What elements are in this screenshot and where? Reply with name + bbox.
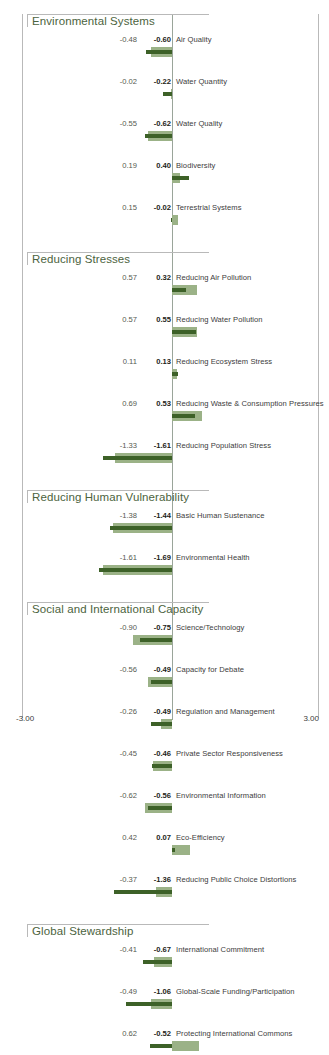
section-left-tick — [27, 924, 28, 937]
row-bars — [0, 369, 329, 383]
row-label: Reducing Water Pollution — [176, 315, 263, 324]
row-value-primary: 0.15 — [104, 203, 137, 212]
bar-secondary-dark — [150, 1044, 172, 1048]
row-label: Global-Scale Funding/Participation — [176, 987, 295, 996]
section-title: Reducing Stresses — [32, 253, 130, 265]
row-value-secondary: 0.07 — [140, 833, 171, 842]
axis-min-label: -3.00 — [16, 714, 34, 723]
row-bars — [0, 957, 329, 971]
bar-secondary-dark — [145, 134, 172, 138]
row-bars — [0, 761, 329, 775]
chart-row: 0.130.11Reducing Ecosystem Stress — [0, 356, 329, 398]
row-label: Reducing Public Choice Distortions — [176, 875, 296, 884]
chart-row: -1.61-1.33Reducing Population Stress — [0, 440, 329, 482]
row-value-primary: 0.69 — [104, 399, 137, 408]
section-title: Global Stewardship — [32, 925, 134, 937]
bar-secondary-dark — [103, 456, 172, 460]
row-value-secondary: -1.36 — [140, 875, 171, 884]
bar-secondary-dark — [110, 526, 172, 530]
row-bars — [0, 999, 329, 1013]
chart-row: -1.44-1.38Basic Human Sustenance — [0, 510, 329, 552]
row-value-primary: 0.42 — [104, 833, 137, 842]
row-value-primary: -1.61 — [104, 553, 137, 562]
row-value-primary: -0.48 — [104, 35, 137, 44]
row-value-primary: -0.41 — [104, 945, 137, 954]
row-value-primary: -1.33 — [104, 441, 137, 450]
bar-secondary-dark — [172, 372, 178, 376]
chart-row: 0.400.19Biodiversity — [0, 160, 329, 202]
row-label: International Commitment — [176, 945, 264, 954]
row-value-secondary: -0.46 — [140, 749, 171, 758]
chart-section: Reducing Stresses0.320.57Reducing Air Po… — [0, 252, 329, 482]
row-label: Private Sector Responsiveness — [176, 749, 283, 758]
row-bars — [0, 1041, 329, 1055]
chart-row: -0.67-0.41International Commitment — [0, 944, 329, 986]
row-value-secondary: -0.02 — [140, 203, 171, 212]
bar-secondary-dark — [126, 1002, 172, 1006]
chart-row: -0.46-0.45Private Sector Responsiveness — [0, 748, 329, 790]
chart-section: Reducing Human Vulnerability-1.44-1.38Ba… — [0, 490, 329, 594]
row-label: Basic Human Sustenance — [176, 511, 264, 520]
bar-secondary-dark — [146, 50, 172, 54]
row-label: Terrestrial Systems — [176, 203, 242, 212]
row-value-secondary: 0.40 — [140, 161, 171, 170]
row-value-secondary: -1.06 — [140, 987, 171, 996]
bar-secondary-dark — [152, 764, 172, 768]
row-bars — [0, 845, 329, 859]
chart-row: -0.520.62Protecting International Common… — [0, 1028, 329, 1055]
row-bars — [0, 887, 329, 901]
row-value-secondary: 0.53 — [140, 399, 171, 408]
bar-secondary-dark — [172, 176, 189, 180]
row-label: Water Quantity — [176, 77, 227, 86]
row-value-secondary: 0.13 — [140, 357, 171, 366]
row-bars — [0, 327, 329, 341]
row-label: Air Quality — [176, 35, 212, 44]
row-bars — [0, 89, 329, 103]
bar-secondary-dark — [163, 92, 172, 96]
row-value-secondary: -0.60 — [140, 35, 171, 44]
bar-secondary-dark — [99, 568, 172, 572]
section-left-tick — [27, 252, 28, 265]
row-value-primary: 0.57 — [104, 273, 137, 282]
bar-primary-light — [172, 1041, 199, 1051]
row-bars — [0, 523, 329, 537]
axis-max-label: 3.00 — [303, 714, 319, 723]
section-left-tick — [27, 602, 28, 615]
row-value-secondary: -0.75 — [140, 623, 171, 632]
row-value-primary: -0.02 — [104, 77, 137, 86]
row-label: Protecting International Commons — [176, 1029, 292, 1038]
section-left-tick — [27, 490, 28, 503]
row-value-primary: -0.90 — [104, 623, 137, 632]
axis-scale-labels: -3.00 3.00 — [0, 714, 329, 730]
row-value-secondary: -0.62 — [140, 119, 171, 128]
row-value-primary: -0.56 — [104, 665, 137, 674]
row-bars — [0, 47, 329, 61]
bar-secondary-dark — [114, 890, 172, 894]
row-value-primary: -0.55 — [104, 119, 137, 128]
chart-row: -1.06-0.49Global-Scale Funding/Participa… — [0, 986, 329, 1028]
row-bars — [0, 411, 329, 425]
row-bars — [0, 635, 329, 649]
row-value-secondary: -0.67 — [140, 945, 171, 954]
row-bars — [0, 565, 329, 579]
chart-row: -0.49-0.56Capacity for Debate — [0, 664, 329, 706]
row-value-primary: -0.62 — [104, 791, 137, 800]
row-value-secondary: -1.44 — [140, 511, 171, 520]
bar-secondary-dark — [172, 848, 175, 852]
chart-section: Social and International Capacity-0.75-0… — [0, 602, 329, 916]
row-value-secondary: -0.49 — [140, 665, 171, 674]
chart-row: -0.60-0.48Air Quality — [0, 34, 329, 76]
bar-primary-light — [172, 215, 178, 225]
row-value-primary: -1.38 — [104, 511, 137, 520]
row-label: Reducing Ecosystem Stress — [176, 357, 272, 366]
row-label: Eco-Efficiency — [176, 833, 225, 842]
row-value-secondary: -1.69 — [140, 553, 171, 562]
row-label: Reducing Population Stress — [176, 441, 271, 450]
row-value-secondary: 0.32 — [140, 273, 171, 282]
row-value-primary: 0.57 — [104, 315, 137, 324]
row-value-primary: -0.37 — [104, 875, 137, 884]
chart-section: Environmental Systems-0.60-0.48Air Quali… — [0, 14, 329, 244]
chart-row: -0.56-0.62Environmental Information — [0, 790, 329, 832]
row-value-primary: 0.11 — [104, 357, 137, 366]
row-value-primary: 0.19 — [104, 161, 137, 170]
